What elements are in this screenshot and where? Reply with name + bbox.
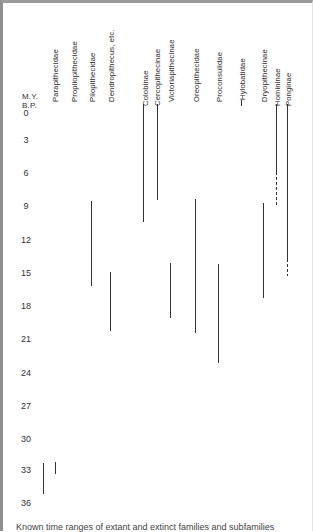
bar-homininae-uncertain bbox=[276, 177, 277, 207]
bar-dendropithecus bbox=[110, 272, 111, 331]
bar-ponginae bbox=[287, 104, 288, 262]
bar-victoriapithecinae bbox=[170, 263, 171, 318]
y-axis-title-line1: M.Y. bbox=[22, 92, 38, 101]
label-homininae: Homininae bbox=[273, 68, 282, 106]
tick-15: 15 bbox=[14, 268, 38, 278]
label-proconsulidae: Proconsulidae bbox=[215, 52, 224, 102]
tick-24: 24 bbox=[14, 368, 38, 378]
label-propliopithecidae: Propliopithecidae bbox=[70, 41, 79, 102]
bar-hylobatidae bbox=[241, 100, 242, 106]
tick-6: 6 bbox=[14, 168, 38, 178]
tick-12: 12 bbox=[14, 235, 38, 245]
tick-18: 18 bbox=[14, 301, 38, 311]
bar-proconsulidae bbox=[218, 264, 219, 363]
bar-propliopithecidae bbox=[55, 462, 56, 474]
tick-33: 33 bbox=[14, 465, 38, 475]
bar-parapithecidae bbox=[43, 463, 44, 494]
tick-9: 9 bbox=[14, 201, 38, 211]
bar-pliopithecidae bbox=[91, 201, 92, 286]
tick-27: 27 bbox=[14, 401, 38, 411]
label-victoriapithecinae: Victoriapithecinae bbox=[167, 39, 176, 102]
tick-36: 36 bbox=[14, 498, 38, 508]
tick-0: 0 bbox=[14, 108, 38, 118]
label-oreopithecidae: Oreopithecidae bbox=[192, 48, 201, 102]
label-pliopithecidae: Pliopithecidae bbox=[88, 53, 97, 102]
label-cercopithecinae: Cercopithecinae bbox=[153, 49, 162, 106]
tick-30: 30 bbox=[14, 434, 38, 444]
label-dryopithecinae: Dryopithecinae bbox=[260, 49, 269, 102]
bar-ponginae-uncertain bbox=[287, 264, 288, 276]
tick-3: 3 bbox=[14, 135, 38, 145]
figure-caption: Known time ranges of extant and extinct … bbox=[16, 522, 274, 532]
bar-dryopithecinae bbox=[263, 203, 264, 298]
label-colobinae: Colobinae bbox=[141, 70, 150, 106]
label-ponginae: Ponginae bbox=[284, 73, 293, 106]
bar-oreopithecidae bbox=[195, 199, 196, 333]
tick-21: 21 bbox=[14, 334, 38, 344]
bar-homininae bbox=[276, 104, 277, 175]
label-parapithecidae: Parapithecidae bbox=[51, 49, 60, 102]
label-dendropithecus: Dendropithecus, etc. bbox=[107, 29, 116, 102]
bar-colobinae bbox=[143, 104, 144, 222]
bar-cercopithecinae bbox=[157, 104, 158, 200]
label-hylobatidae: Hylobatidae bbox=[238, 58, 247, 100]
